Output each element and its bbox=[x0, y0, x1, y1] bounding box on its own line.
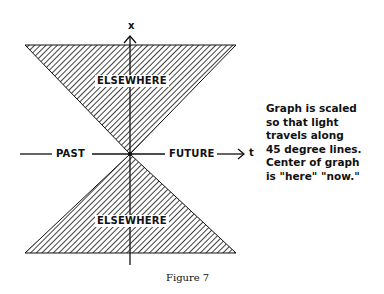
scaling-note: Graph is scaled so that light travels al… bbox=[266, 102, 362, 183]
figure-caption: Figure 7 bbox=[166, 272, 209, 283]
t-axis-label: t bbox=[247, 147, 256, 159]
elsewhere-top-label: ELSEWHERE bbox=[95, 75, 169, 87]
future-label: FUTURE bbox=[167, 148, 217, 160]
origin-point bbox=[128, 152, 132, 156]
x-axis-label: x bbox=[126, 20, 137, 32]
elsewhere-bottom-label: ELSEWHERE bbox=[95, 215, 169, 227]
past-label: PAST bbox=[54, 148, 87, 160]
